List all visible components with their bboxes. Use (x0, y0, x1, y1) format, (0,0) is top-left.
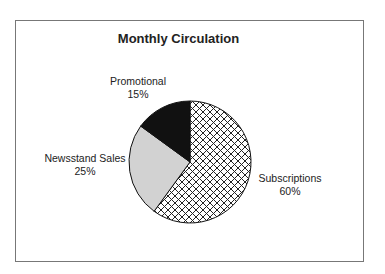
label-newsstand-pct: 25% (40, 165, 130, 178)
label-promotional-name: Promotional (103, 75, 173, 88)
label-subscriptions: Subscriptions 60% (250, 172, 330, 198)
label-subscriptions-name: Subscriptions (250, 172, 330, 185)
label-newsstand-sales: Newsstand Sales 25% (40, 152, 130, 178)
label-subscriptions-pct: 60% (250, 185, 330, 198)
label-promotional-pct: 15% (103, 88, 173, 101)
label-newsstand-name: Newsstand Sales (40, 152, 130, 165)
pie-chart (0, 0, 385, 274)
label-promotional: Promotional 15% (103, 75, 173, 101)
